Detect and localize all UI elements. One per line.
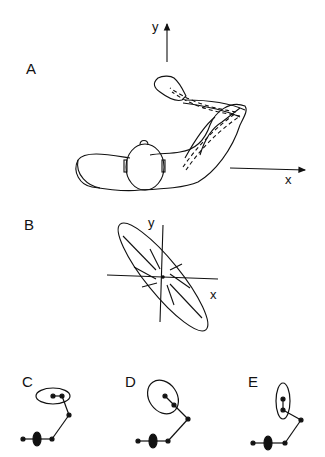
body-outline [76,104,246,190]
panel-d-torso [149,434,157,448]
left-shoulder [78,160,100,188]
panel-c-torso [33,432,41,446]
panel-b-y-axis [160,225,163,322]
panel-a [76,24,305,191]
panel-e-torso [264,436,272,450]
panel-a-x-axis [230,168,305,170]
head [126,144,164,190]
panel-c [21,388,71,446]
figure-canvas [0,0,325,457]
panel-d [136,374,190,448]
panel-b [107,213,219,340]
panel-e [251,383,303,450]
humerus-dashed [183,113,236,167]
